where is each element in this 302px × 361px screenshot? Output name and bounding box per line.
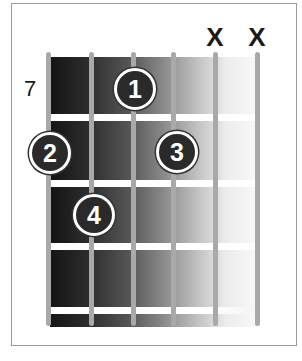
mute-x-icon-string-6: X bbox=[242, 24, 272, 50]
fret-line-3 bbox=[50, 243, 257, 250]
finger-dot-1: 1 bbox=[114, 68, 156, 110]
string-5 bbox=[213, 52, 218, 326]
string-2 bbox=[89, 52, 94, 326]
string-4 bbox=[171, 52, 176, 326]
finger-dot-2: 2 bbox=[29, 132, 71, 174]
finger-dot-3: 3 bbox=[156, 131, 198, 173]
mute-x-icon-string-5: X bbox=[200, 24, 230, 50]
finger-dot-4: 4 bbox=[73, 194, 115, 236]
fret-line-2 bbox=[50, 180, 257, 187]
start-fret-number: 7 bbox=[24, 76, 36, 102]
fret-line-1 bbox=[50, 114, 257, 121]
fret-line-4 bbox=[50, 307, 257, 314]
string-6 bbox=[255, 52, 260, 326]
string-1 bbox=[46, 52, 51, 326]
